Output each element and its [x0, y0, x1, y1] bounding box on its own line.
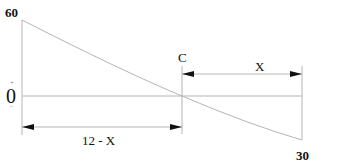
shear-curve: [22, 20, 302, 140]
x-dimension-label: X: [255, 60, 264, 73]
point-c-label: C: [178, 51, 187, 64]
top-value-label: 60: [5, 6, 18, 19]
diagram-graphics: [0, 0, 351, 163]
shear-force-diagram: 60 + 0 - C X 12 - X 30: [0, 0, 351, 163]
bottom-value-label: 30: [296, 149, 309, 162]
minus-sign: -: [10, 103, 12, 110]
12-minus-x-label: 12 - X: [82, 134, 115, 147]
